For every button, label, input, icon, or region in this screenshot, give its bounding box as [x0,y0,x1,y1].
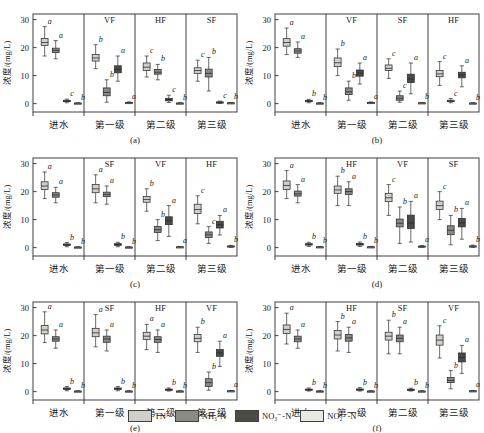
y-tick-label: 0 [25,243,29,253]
significance-letter: a [301,320,305,329]
y-tick-label: 10 [263,359,272,369]
boxplot-box [74,247,81,248]
y-axis-label: 浓度/(mg/L) [2,185,12,230]
boxplot-box [52,41,59,59]
boxplot-box [143,56,150,77]
boxplot-box [52,330,59,348]
y-axis-label: 浓度/(mg/L) [244,41,254,86]
significance-letter: b [81,381,85,390]
significance-letter: c [443,316,447,325]
significance-letter: c [454,89,458,98]
boxplot-box [227,245,234,247]
significance-letter: b [312,89,316,98]
significance-letter: b [476,235,480,244]
x-category-label: 第二级 [146,119,176,130]
significance-letter: a [465,56,469,65]
treatment-label: VF [448,303,459,313]
boxplot-box [469,245,476,247]
boxplot-box [283,28,290,55]
boxplot-box [114,56,121,81]
boxplot-box [114,242,121,246]
x-category-label: 进水 [49,263,69,274]
significance-letter: b [323,236,327,245]
treatment-label: HF [448,15,459,25]
significance-letter: a [414,53,418,62]
significance-letter: c [443,182,447,191]
boxplot-box [125,247,132,248]
legend-item: NO₂⁻-N [300,410,356,422]
significance-letter: a [414,191,418,200]
boxplot-box [407,201,414,242]
significance-letter: b [341,312,345,321]
legend-label: NO₂⁻-N [327,411,356,421]
boxplot-box [41,172,48,199]
x-category-label: 第二级 [388,119,418,130]
boxplot-box [205,372,212,390]
boxplot-box [294,42,301,57]
significance-letter: a [132,92,136,101]
treatment-label: HF [346,159,357,169]
treatment-label: VF [206,303,217,313]
significance-letter: a [59,177,63,186]
chart-panel-b: 0102030浓度/(mg/L)进水aabbVF第一级bbaaSF第二级ccab… [242,0,484,145]
boxplot-box [305,388,312,391]
significance-letter: b [323,381,327,390]
boxplot-box [294,185,301,203]
boxplot-box [418,102,425,103]
significance-letter: a [290,161,294,170]
chart-panel-c: 0102030浓度/(mg/L)进水aabbSF第一级aabbVF第二级bbaa… [0,144,242,289]
treatment-label: HF [155,15,166,25]
treatment-label: HF [155,303,166,313]
boxplot-box [194,196,201,224]
significance-letter: a [110,320,114,329]
significance-letter: b [476,93,480,102]
x-category-label: 第一级 [337,263,367,274]
significance-letter: a [99,305,103,314]
significance-letter: a [110,176,114,185]
treatment-label: SF [398,15,408,25]
x-category-label: 第一级 [337,119,367,130]
significance-letter: a [48,302,52,311]
significance-letter: a [374,92,378,101]
y-tick-label: 0 [267,99,271,109]
boxplot-box [176,103,183,104]
significance-letter: b [392,310,396,319]
significance-letter: a [48,162,52,171]
significance-letter: b [172,378,176,387]
significance-letter: b [132,237,136,246]
y-axis-label: 浓度/(mg/L) [244,329,254,374]
box-body [154,69,161,74]
significance-letter: a [465,335,469,344]
significance-letter: b [425,92,429,101]
boxplot-box [458,66,465,87]
boxplot-box [334,49,341,76]
y-tick-label: 20 [263,331,272,341]
significance-letter: b [212,362,216,371]
significance-letter: a [363,53,367,62]
boxplot-box [176,246,183,247]
boxplot-box [74,391,81,392]
treatment-label: SF [449,159,459,169]
boxplot-box [194,60,201,81]
boxplot-box [143,189,150,211]
boxplot-box [227,102,234,103]
boxplot-box [41,312,48,343]
treatment-label: VF [397,159,408,169]
y-tick-label: 10 [263,215,272,225]
chart-panel-a: 0102030浓度/(mg/L)进水aacbVF第一级bbaaHF第二级cbcb… [0,0,242,145]
treatment-label: SF [398,303,408,313]
y-tick-label: 30 [263,303,272,313]
significance-letter: c [70,89,74,98]
legend-item: TN [128,410,166,422]
boxplot-box [165,206,172,237]
significance-letter: a [352,317,356,326]
y-tick-label: 10 [21,359,30,369]
significance-letter: b [110,70,114,79]
boxplot-box [103,186,110,204]
significance-letter: a [59,31,63,40]
box-body [407,74,414,82]
boxplot-box [165,388,172,391]
significance-letter: b [374,381,378,390]
significance-letter: a [352,172,356,181]
y-axis-label: 浓度/(mg/L) [244,185,254,230]
